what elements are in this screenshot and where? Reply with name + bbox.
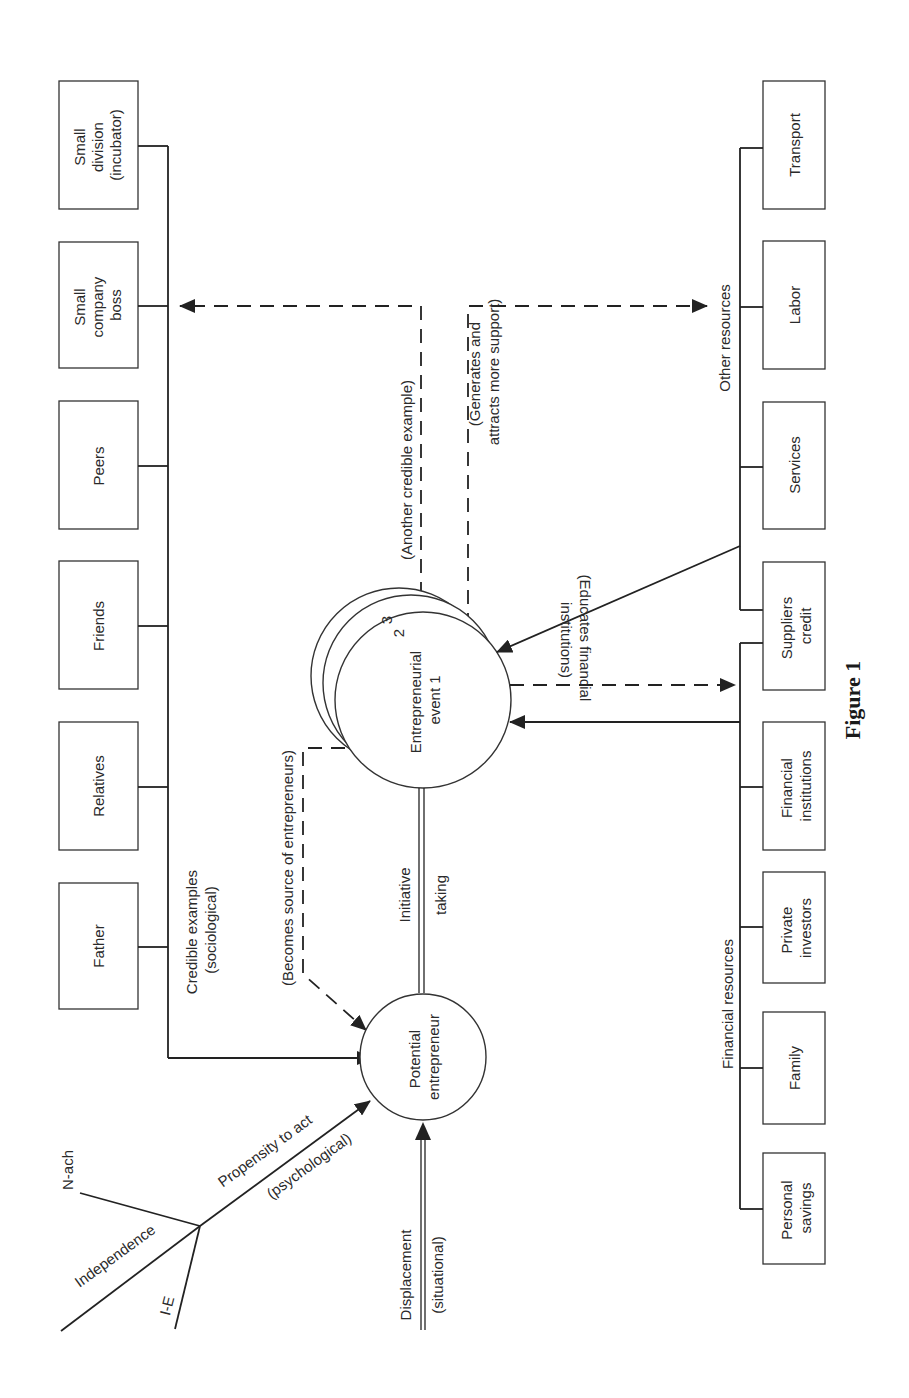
box-relatives: Relatives	[59, 722, 138, 850]
svg-text:Services: Services	[786, 436, 803, 494]
sociological-connector	[138, 146, 372, 1058]
financial-resources-connector: Financial resources	[510, 643, 763, 1209]
box-father: Father	[59, 883, 138, 1009]
box-suppliers-credit: Suppliers credit	[763, 562, 825, 690]
box-friends: Friends	[59, 561, 138, 689]
svg-text:Friends: Friends	[90, 601, 107, 651]
svg-text:(Another credible example): (Another credible example)	[398, 380, 415, 560]
another-credible-example-link: (Another credible example)	[180, 306, 421, 596]
svg-text:Relatives: Relatives	[90, 755, 107, 817]
box-small-company-boss: Small company boss	[59, 242, 138, 368]
educates-institutions-link: (Educates financial institutions)	[510, 575, 735, 706]
displacement-link: Displacement (situational)	[397, 1122, 446, 1330]
psychological-inputs: N-ach Independence I-E Propensity to act…	[59, 1101, 370, 1331]
sociological-boxes: Small division (incubator) Small company…	[59, 81, 138, 1009]
financial-resources-boxes: Suppliers credit Financial institutions …	[763, 562, 825, 1264]
svg-text:Labor: Labor	[786, 286, 803, 324]
credible-examples-label: Credible examples (sociological)	[183, 866, 219, 994]
financial-resources-label: Financial resources	[719, 939, 736, 1069]
other-resources-label: Other resources	[716, 284, 733, 392]
figure-caption: Figure 1	[840, 661, 865, 739]
svg-text:Displacement: Displacement	[397, 1229, 414, 1321]
n-ach-label: N-ach	[59, 1150, 76, 1190]
entrepreneurship-diagram: Small division (incubator) Small company…	[0, 0, 909, 1398]
svg-text:Family: Family	[786, 1045, 803, 1090]
box-labor: Labor	[763, 241, 825, 369]
box-personal-savings: Personal savings	[763, 1153, 825, 1264]
becomes-source-link: (Becomes source of entrepreneurs)	[279, 748, 366, 1030]
box-peers: Peers	[59, 401, 138, 529]
box-transport: Transport	[763, 81, 825, 209]
svg-text:Peers: Peers	[90, 446, 107, 485]
other-resources-connector: Other resources	[497, 148, 763, 652]
svg-text:Transport: Transport	[786, 112, 803, 176]
svg-text:Initiative: Initiative	[396, 867, 413, 922]
box-family: Family	[763, 1012, 825, 1124]
other-resources-boxes: Transport Labor Services	[763, 81, 825, 529]
box-small-division: Small division (incubator)	[59, 81, 138, 209]
potential-entrepreneur: Potential entrepreneur	[360, 994, 486, 1120]
entrepreneurial-event: 3 2 Entrepreneurial event 1	[311, 588, 511, 788]
svg-text:taking: taking	[432, 875, 449, 915]
event-number-3: 3	[378, 616, 395, 624]
svg-text:Father: Father	[90, 924, 107, 967]
initiative-taking-link: Initiative taking	[396, 788, 449, 993]
svg-text:(situational): (situational)	[429, 1236, 446, 1314]
event-number-2: 2	[390, 629, 407, 637]
i-e-label: I-E	[156, 1294, 177, 1317]
svg-text:(Generates and attracts: (Generates and attracts more support)	[466, 299, 502, 446]
box-private-investors: Private investors	[763, 872, 825, 983]
independence-label: Independence	[71, 1221, 158, 1291]
svg-text:(Becomes source of entrepreneu: (Becomes source of entrepreneurs)	[279, 750, 296, 986]
box-financial-institutions: Financial institutions	[763, 722, 825, 850]
box-services: Services	[763, 402, 825, 529]
